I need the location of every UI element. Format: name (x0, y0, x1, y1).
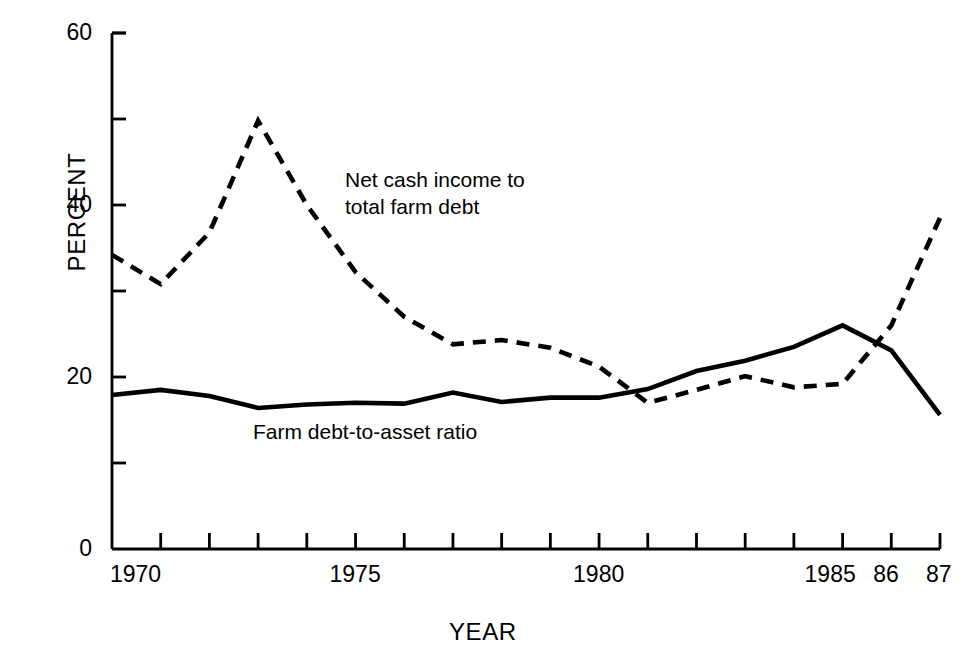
y-tick-label-0: 0 (0, 537, 92, 560)
dashed-series-label-line1: Net cash income to (345, 167, 525, 194)
dashed-series-label-line2: total farm debt (345, 194, 525, 221)
y-axis-title: PERCENT (65, 153, 89, 272)
axis-ticks (112, 33, 891, 549)
axes (112, 33, 940, 549)
x-tick-label-1970: 1970 (110, 563, 161, 586)
x-tick-label-1987: 87 (926, 563, 952, 586)
data-series (112, 121, 940, 415)
x-tick-label-1986: 86 (873, 563, 899, 586)
x-tick-label-1975: 1975 (330, 563, 381, 586)
x-axis-title: YEAR (449, 620, 517, 644)
series-line-0 (112, 121, 940, 403)
solid-series-label: Farm debt-to-asset ratio (253, 419, 477, 446)
y-tick-label-20: 20 (0, 365, 92, 388)
y-tick-label-60: 60 (0, 21, 92, 44)
x-tick-label-1985: 1985 (805, 563, 856, 586)
chart-figure: 0 20 40 60 1970 1975 1980 1985 86 87 PER… (0, 0, 974, 659)
dashed-series-label: Net cash income to total farm debt (345, 167, 525, 221)
x-tick-label-1980: 1980 (573, 563, 624, 586)
series-line-1 (112, 325, 940, 414)
